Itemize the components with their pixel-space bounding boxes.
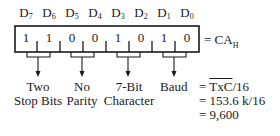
group-baud: Baud bbox=[160, 80, 190, 94]
group-parity: No Parity bbox=[62, 80, 102, 108]
bit-label-d6: D6 bbox=[37, 5, 61, 21]
bit-label-d0: D0 bbox=[175, 5, 199, 21]
bit-value-d4: 0 bbox=[85, 30, 105, 46]
bit-value-d3: 1 bbox=[108, 30, 128, 46]
group-brackets bbox=[27, 52, 186, 73]
bit-label-d2: D2 bbox=[129, 5, 153, 21]
bit-label-d1: D1 bbox=[152, 5, 176, 21]
baud-eq-line1: = TxC/16 bbox=[199, 80, 265, 94]
bit-value-d7: 1 bbox=[16, 30, 36, 46]
register-hex-value: = CAH bbox=[204, 33, 238, 53]
bit-label-d3: D3 bbox=[106, 5, 130, 21]
bit-value-d0: 0 bbox=[177, 30, 197, 46]
baud-equation: = TxC/16 = 153.6 k/16 = 9,600 bbox=[199, 80, 265, 122]
bit-label-d7: D7 bbox=[14, 5, 38, 21]
bit-value-d1: 1 bbox=[154, 30, 174, 46]
bit-value-d6: 1 bbox=[39, 30, 59, 46]
baud-eq-line3: = 9,600 bbox=[199, 108, 265, 122]
bit-value-d5: 0 bbox=[62, 30, 82, 46]
arrow-heads bbox=[36, 71, 177, 77]
group-stop-bits: Two Stop Bits bbox=[8, 80, 68, 108]
group-character-length: 7-Bit Character bbox=[100, 80, 158, 108]
baud-eq-line2: = 153.6 k/16 bbox=[199, 94, 265, 108]
bit-value-d2: 0 bbox=[131, 30, 151, 46]
bit-label-d4: D4 bbox=[83, 5, 107, 21]
bit-label-d5: D5 bbox=[60, 5, 84, 21]
